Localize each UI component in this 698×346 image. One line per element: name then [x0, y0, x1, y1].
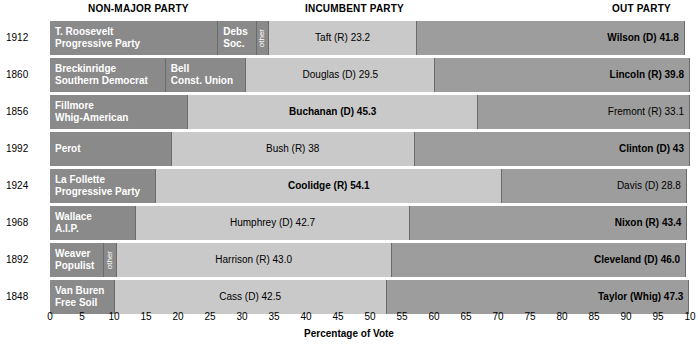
x-axis-tick: 60 — [428, 311, 439, 322]
table-row: 1968WallaceA.I.P.Humphrey (D) 42.7Nixon … — [0, 206, 698, 240]
bar-segment[interactable]: Clinton (D) 43 — [415, 132, 690, 166]
stacked-bar: Van BurenFree SoilCass (D) 42.5Taylor (W… — [50, 280, 690, 314]
column-header-incumbent-party: INCUMBENT PARTY — [305, 3, 404, 14]
bar-segment-label: Taft (R) 23.2 — [310, 32, 375, 44]
x-axis-tick: 10 — [684, 311, 695, 322]
x-axis-label: Percentage of Vote — [0, 328, 698, 339]
bar-segment-label: Cass (D) 42.5 — [214, 291, 286, 303]
bar-segment[interactable]: Bush (R) 38 — [172, 132, 415, 166]
x-axis-tick: 55 — [396, 311, 407, 322]
bar-segment-label: La FolletteProgressive Party — [50, 174, 145, 198]
bar-segment-label: Douglas (D) 29.5 — [298, 69, 384, 81]
x-axis-tick: 65 — [460, 311, 471, 322]
bar-segment[interactable]: Davis (D) 28.8 — [502, 169, 686, 203]
table-row: 1860BreckinridgeSouthern DemocratBellCon… — [0, 58, 698, 92]
bar-segment[interactable]: Taylor (Whig) 47.3 — [387, 280, 690, 314]
stacked-bar: La FolletteProgressive PartyCoolidge (R)… — [50, 169, 690, 203]
bar-segment[interactable]: WallaceA.I.P. — [50, 206, 136, 240]
x-axis-tick: 0 — [47, 311, 53, 322]
bar-segment[interactable]: Cass (D) 42.5 — [115, 280, 387, 314]
bar-segment-label: Buchanan (D) 45.3 — [284, 106, 381, 118]
bar-segment[interactable]: Van BurenFree Soil — [50, 280, 115, 314]
x-axis-tick: 5 — [79, 311, 85, 322]
bar-segment[interactable]: other — [257, 21, 269, 55]
bar-segment-label: Harrison (R) 43.0 — [210, 254, 297, 266]
row-year-label: 1992 — [6, 143, 42, 154]
row-year-label: 1968 — [6, 217, 42, 228]
bar-segment-label: Fremont (R) 33.1 — [603, 106, 689, 118]
bar-segment[interactable]: WeaverPopulist — [50, 243, 104, 277]
bar-segment[interactable]: Humphrey (D) 42.7 — [136, 206, 409, 240]
x-axis-tick: 75 — [524, 311, 535, 322]
bar-segment[interactable]: Douglas (D) 29.5 — [246, 58, 435, 92]
bar-segment[interactable]: Lincoln (R) 39.8 — [435, 58, 690, 92]
x-axis-tick: 70 — [492, 311, 503, 322]
bar-segment[interactable]: T. RooseveltProgressive Party — [50, 21, 218, 55]
row-year-label: 1924 — [6, 180, 42, 191]
bar-segment[interactable]: Coolidge (R) 54.1 — [156, 169, 502, 203]
bar-segment[interactable]: Cleveland (D) 46.0 — [392, 243, 686, 277]
table-row: 1848Van BurenFree SoilCass (D) 42.5Taylo… — [0, 280, 698, 314]
stacked-bar: WeaverPopulistotherHarrison (R) 43.0Clev… — [50, 243, 690, 277]
column-header-non-major-party: NON-MAJOR PARTY — [88, 3, 189, 14]
table-row: 1856FillmoreWhig-AmericanBuchanan (D) 45… — [0, 95, 698, 129]
bar-segment[interactable]: DebsSoc. — [218, 21, 256, 55]
bar-segment[interactable]: Nixon (R) 43.4 — [410, 206, 688, 240]
bar-segment-label: Bush (R) 38 — [261, 143, 324, 155]
election-vote-share-chart: NON-MAJOR PARTY INCUMBENT PARTY OUT PART… — [0, 0, 698, 346]
x-axis-tick: 15 — [140, 311, 151, 322]
bar-segment[interactable]: FillmoreWhig-American — [50, 95, 188, 129]
bar-segment-label: Clinton (D) 43 — [614, 143, 689, 155]
bar-segment-label: other — [105, 251, 115, 269]
stacked-bar: BreckinridgeSouthern DemocratBellConst. … — [50, 58, 690, 92]
bar-segment-label: Davis (D) 28.8 — [612, 180, 686, 192]
bar-segment-label: BreckinridgeSouthern Democrat — [50, 63, 153, 87]
bar-segment[interactable]: Wilson (D) 41.8 — [417, 21, 685, 55]
x-axis-tick: 95 — [652, 311, 663, 322]
stacked-bar: FillmoreWhig-AmericanBuchanan (D) 45.3Fr… — [50, 95, 690, 129]
x-axis-tick: 80 — [556, 311, 567, 322]
bar-segment[interactable]: Harrison (R) 43.0 — [117, 243, 392, 277]
table-row: 1992PerotBush (R) 38Clinton (D) 43 — [0, 132, 698, 166]
bar-segment[interactable]: BreckinridgeSouthern Democrat — [50, 58, 166, 92]
table-row: 1924La FolletteProgressive PartyCoolidge… — [0, 169, 698, 203]
bar-segment-label: Perot — [50, 143, 86, 155]
table-row: 1892WeaverPopulistotherHarrison (R) 43.0… — [0, 243, 698, 277]
bar-segment-label: BellConst. Union — [166, 63, 238, 87]
x-axis-tick: 25 — [204, 311, 215, 322]
x-axis-tick: 90 — [620, 311, 631, 322]
row-year-label: 1892 — [6, 254, 42, 265]
x-axis-tick: 10 — [108, 311, 119, 322]
bar-segment[interactable]: other — [104, 243, 116, 277]
x-axis-tick: 35 — [268, 311, 279, 322]
bar-segment-label: T. RooseveltProgressive Party — [50, 26, 145, 50]
x-axis-tick: 30 — [236, 311, 247, 322]
bar-segment[interactable]: Buchanan (D) 45.3 — [188, 95, 478, 129]
bar-segment-label: Taylor (Whig) 47.3 — [593, 291, 688, 303]
bar-segment[interactable]: BellConst. Union — [166, 58, 247, 92]
bar-segment[interactable]: Perot — [50, 132, 172, 166]
bar-segment[interactable]: La FolletteProgressive Party — [50, 169, 156, 203]
bar-segment-label: Cleveland (D) 46.0 — [589, 254, 685, 266]
x-axis: 0510152025303540455055606570758085909510 — [0, 311, 698, 327]
bar-segment-label: Lincoln (R) 39.8 — [605, 69, 689, 81]
bar-segment[interactable]: Taft (R) 23.2 — [269, 21, 417, 55]
x-axis-tick: 50 — [364, 311, 375, 322]
x-axis-tick: 20 — [172, 311, 183, 322]
x-axis-tick: 45 — [332, 311, 343, 322]
bar-segment[interactable]: Fremont (R) 33.1 — [478, 95, 690, 129]
bar-segment-label: other — [257, 29, 267, 47]
bar-segment-label: WeaverPopulist — [50, 248, 99, 272]
bar-segment-label: FillmoreWhig-American — [50, 100, 133, 124]
bar-segment-label: Van BurenFree Soil — [50, 285, 109, 309]
table-row: 1912T. RooseveltProgressive PartyDebsSoc… — [0, 21, 698, 55]
bar-segment-label: Humphrey (D) 42.7 — [225, 217, 320, 229]
bar-segment-label: Coolidge (R) 54.1 — [283, 180, 375, 192]
bar-segment-label: DebsSoc. — [218, 26, 252, 50]
stacked-bar: WallaceA.I.P.Humphrey (D) 42.7Nixon (R) … — [50, 206, 690, 240]
column-header-out-party: OUT PARTY — [612, 3, 671, 14]
bar-segment-label: Nixon (R) 43.4 — [610, 217, 687, 229]
x-axis-tick: 40 — [300, 311, 311, 322]
row-year-label: 1912 — [6, 32, 42, 43]
row-year-label: 1856 — [6, 106, 42, 117]
